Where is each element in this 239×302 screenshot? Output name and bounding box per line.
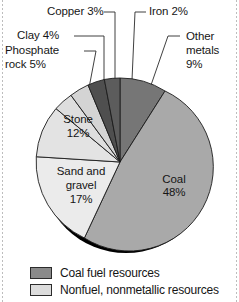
pie-chart-figure: Coal 48% Sand and gravel 17% Stone 12% C… — [0, 0, 239, 302]
callout-other-metals-line3: 9% — [186, 58, 202, 71]
callout-copper: Copper 3% — [47, 5, 104, 18]
leader-line-clay — [74, 36, 104, 84]
callout-phosphate-rock-line2: rock 5% — [5, 58, 46, 71]
callout-iron: Iron 2% — [149, 5, 188, 18]
chart-legend: Coal fuel resources Nonfuel, nonmetallic… — [30, 264, 219, 298]
legend-label-nonfuel: Nonfuel, nonmetallic resources — [60, 283, 219, 297]
callout-other-metals-line1: Other — [186, 30, 214, 43]
callout-clay: Clay 4% — [17, 29, 59, 42]
legend-item-nonfuel[interactable]: Nonfuel, nonmetallic resources — [30, 281, 219, 298]
callout-phosphate-rock-line1: Phosphate — [5, 44, 59, 57]
callout-other-metals-line2: metals — [186, 44, 219, 57]
leader-line-iron — [132, 12, 146, 80]
slice-label-coal-name: Coal — [162, 173, 185, 185]
slice-label-stone-value: 12% — [67, 127, 90, 139]
slice-label-sand-line2: gravel — [66, 179, 97, 191]
leader-lines — [74, 12, 180, 88]
slice-label-stone-name: Stone — [63, 113, 93, 125]
legend-label-coal: Coal fuel resources — [60, 266, 160, 280]
legend-swatch-nonfuel — [30, 284, 52, 296]
legend-swatch-coal — [30, 267, 52, 279]
slice-label-sand-value: 17% — [70, 193, 93, 205]
slice-label-sand-line1: Sand and — [57, 165, 105, 177]
slice-label-coal-value: 48% — [163, 186, 186, 198]
legend-item-coal[interactable]: Coal fuel resources — [30, 264, 219, 281]
leader-line-copper — [104, 12, 115, 80]
leader-line-other-metals — [150, 36, 180, 88]
